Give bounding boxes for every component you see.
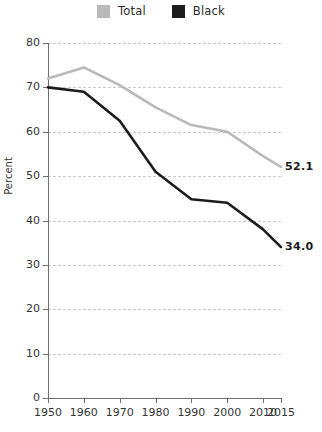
line-chart: Total Black Percent 01020304050607080 19… [0,0,322,432]
end-label-black: 34.0 [285,240,313,253]
data-series-layer [0,0,322,432]
end-label-total: 52.1 [285,160,313,173]
series-line-total [48,67,281,166]
